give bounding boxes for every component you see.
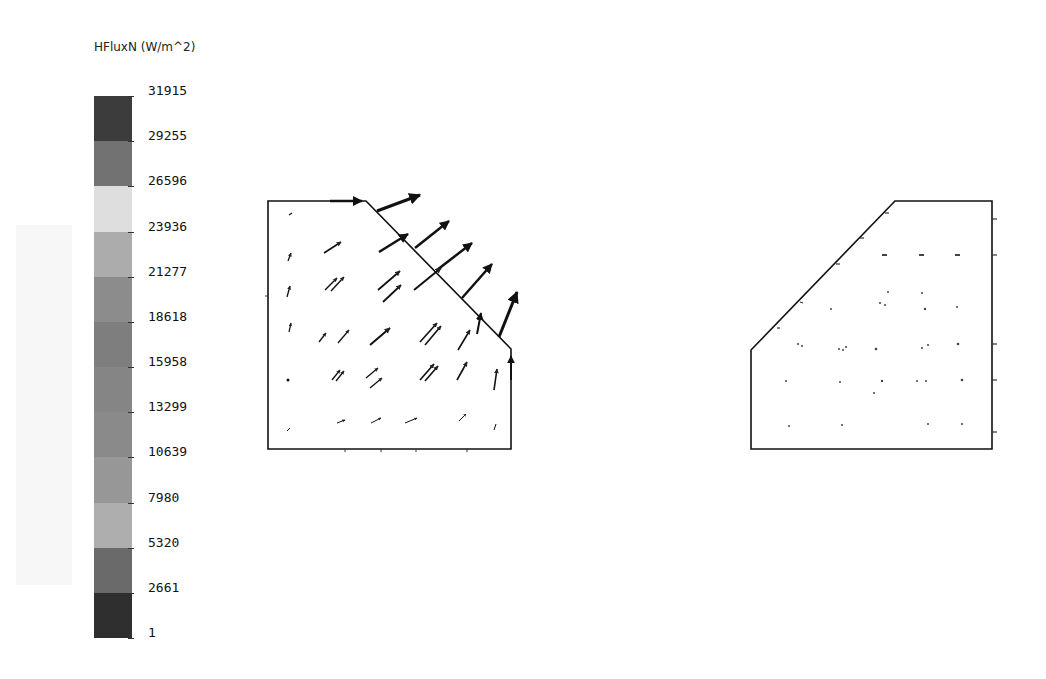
heat-flux-arrows (287, 195, 518, 431)
right-geometry (751, 201, 997, 449)
left-geometry (265, 201, 511, 452)
plot-canvas (0, 0, 1046, 679)
right-flux-points (785, 254, 963, 427)
